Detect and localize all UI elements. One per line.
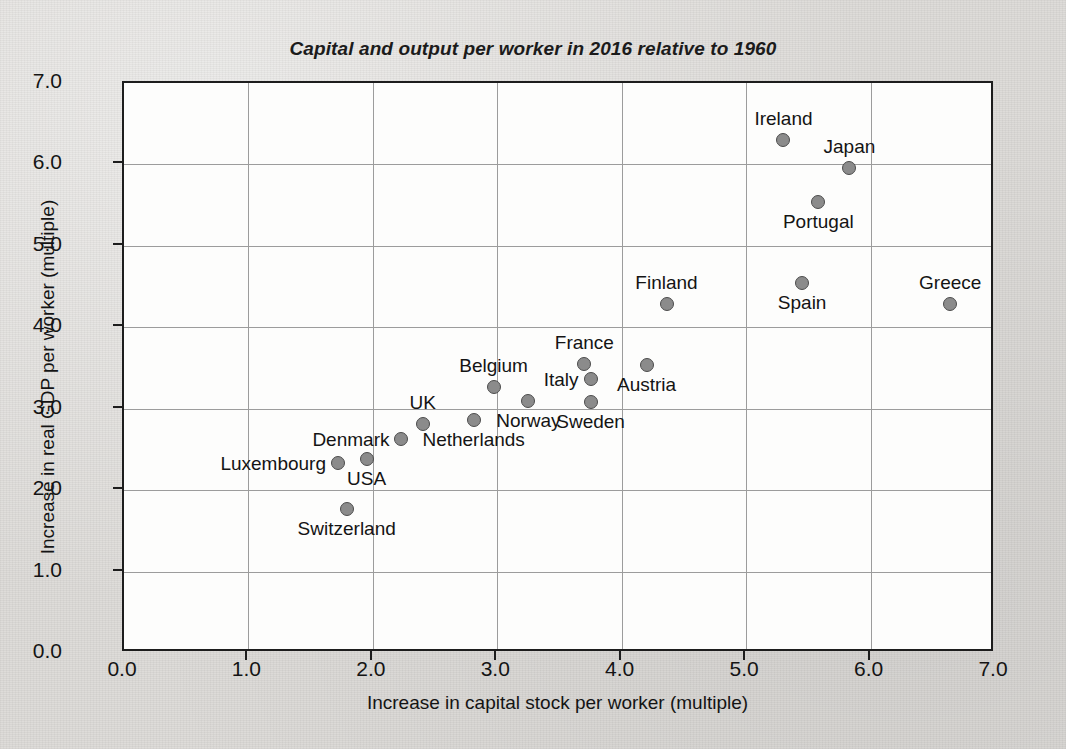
x-axis-tick-label: 6.0 bbox=[824, 657, 914, 681]
y-axis-tick-label: 6.0 bbox=[0, 150, 62, 174]
data-point-marker bbox=[811, 195, 825, 209]
y-axis-tick-label: 5.0 bbox=[0, 232, 62, 256]
x-axis-tick-label: 5.0 bbox=[699, 657, 789, 681]
data-point-label: Austria bbox=[617, 375, 676, 394]
x-axis-tick-label: 0.0 bbox=[77, 657, 167, 681]
gridline-horizontal bbox=[124, 246, 991, 247]
x-axis-tick-label: 4.0 bbox=[575, 657, 665, 681]
data-point-label: Belgium bbox=[459, 356, 528, 375]
data-point-marker bbox=[640, 358, 654, 372]
data-point-label: USA bbox=[347, 469, 386, 488]
data-point-marker bbox=[340, 502, 354, 516]
y-axis-tick-label: 2.0 bbox=[0, 476, 62, 500]
data-point-label: France bbox=[555, 333, 614, 352]
gridline-horizontal bbox=[124, 572, 991, 573]
data-point-marker bbox=[394, 432, 408, 446]
data-point-marker bbox=[584, 395, 598, 409]
gridline-vertical bbox=[248, 83, 249, 649]
data-point-label: Spain bbox=[778, 293, 827, 312]
data-point-marker bbox=[360, 452, 374, 466]
plot-area: IrelandJapanPortugalSpainGreeceFinlandAu… bbox=[122, 81, 993, 651]
chart-title: Capital and output per worker in 2016 re… bbox=[0, 38, 1066, 60]
y-axis-tick-label: 7.0 bbox=[0, 69, 62, 93]
y-axis-tick-mark bbox=[113, 569, 122, 571]
y-axis-tick-label: 4.0 bbox=[0, 313, 62, 337]
data-point-marker bbox=[487, 380, 501, 394]
data-point-label: Switzerland bbox=[298, 519, 396, 538]
data-point-marker bbox=[416, 417, 430, 431]
scatter-chart-figure: Capital and output per worker in 2016 re… bbox=[0, 0, 1066, 749]
y-axis-tick-mark bbox=[113, 324, 122, 326]
x-axis-tick-label: 7.0 bbox=[948, 657, 1038, 681]
data-point-label: Greece bbox=[919, 273, 981, 292]
data-point-label: Luxembourg bbox=[220, 454, 326, 473]
x-axis-tick-label: 2.0 bbox=[326, 657, 416, 681]
y-axis-tick-label: 1.0 bbox=[0, 558, 62, 582]
data-point-marker bbox=[584, 372, 598, 386]
data-point-label: Norway bbox=[496, 411, 560, 430]
y-axis-tick-mark bbox=[113, 487, 122, 489]
data-point-marker bbox=[467, 413, 481, 427]
data-point-label: Denmark bbox=[312, 429, 389, 448]
gridline-horizontal bbox=[124, 164, 991, 165]
x-axis-tick-label: 3.0 bbox=[450, 657, 540, 681]
data-point-marker bbox=[943, 297, 957, 311]
data-point-label: Italy bbox=[544, 370, 579, 389]
y-axis-tick-mark bbox=[113, 406, 122, 408]
y-axis-tick-label: 3.0 bbox=[0, 395, 62, 419]
y-axis-tick-label: 0.0 bbox=[0, 639, 62, 663]
gridline-vertical bbox=[373, 83, 374, 649]
data-point-label: Netherlands bbox=[422, 430, 524, 449]
data-point-label: UK bbox=[409, 393, 435, 412]
data-point-label: Sweden bbox=[556, 412, 625, 431]
x-axis-label: Increase in capital stock per worker (mu… bbox=[122, 692, 993, 714]
data-point-label: Portugal bbox=[783, 212, 854, 231]
data-point-marker bbox=[577, 357, 591, 371]
data-point-marker bbox=[331, 456, 345, 470]
gridline-horizontal bbox=[124, 327, 991, 328]
data-point-label: Japan bbox=[824, 137, 876, 156]
gridline-horizontal bbox=[124, 490, 991, 491]
data-point-marker bbox=[660, 297, 674, 311]
gridline-vertical bbox=[746, 83, 747, 649]
y-axis-tick-mark bbox=[113, 161, 122, 163]
y-axis-tick-mark bbox=[113, 243, 122, 245]
data-point-marker bbox=[842, 161, 856, 175]
data-point-label: Finland bbox=[635, 273, 697, 292]
gridline-vertical bbox=[622, 83, 623, 649]
data-point-marker bbox=[521, 394, 535, 408]
data-point-marker bbox=[795, 276, 809, 290]
gridline-vertical bbox=[871, 83, 872, 649]
data-point-label: Ireland bbox=[754, 109, 812, 128]
data-point-marker bbox=[776, 133, 790, 147]
x-axis-tick-label: 1.0 bbox=[201, 657, 291, 681]
